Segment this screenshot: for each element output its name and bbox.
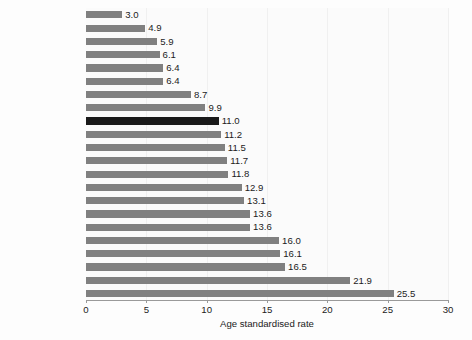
value-label: 16.1	[283, 248, 302, 259]
x-tick-label-20: 20	[322, 304, 333, 315]
value-label: 4.9	[148, 22, 161, 33]
value-label: 16.0	[282, 235, 301, 246]
bar	[86, 224, 250, 231]
bar-row: United Kingdom6.4	[86, 61, 448, 74]
value-label: 8.7	[194, 89, 207, 100]
bar	[86, 197, 244, 204]
x-axis-title-text: Age standardised rate	[220, 318, 314, 329]
x-tick-label-25: 25	[382, 304, 393, 315]
value-label: 11.5	[228, 142, 246, 153]
bar	[86, 184, 242, 191]
gridline-30	[448, 8, 449, 300]
value-label: 11.2	[224, 129, 242, 140]
x-tick-15	[267, 300, 268, 303]
value-label: 6.4	[166, 62, 179, 73]
value-label: 3.0	[125, 9, 138, 20]
bar	[86, 290, 394, 297]
bar-row: Portugal4.9	[86, 21, 448, 34]
value-label: 12.9	[245, 182, 264, 193]
x-tick-5	[146, 300, 147, 303]
bar	[86, 104, 205, 111]
value-label: 5.9	[160, 36, 173, 47]
bar-row: Ireland (1996)11.2	[86, 127, 448, 140]
bar-row: Denmark (1996)13.6	[86, 207, 448, 220]
bar-row: Greece3.0	[86, 8, 448, 21]
bar	[86, 250, 280, 257]
bar-row: France (1996)16.0	[86, 234, 448, 247]
x-tick-0	[86, 300, 87, 303]
bar-row: Czech Republic13.6	[86, 220, 448, 233]
bar-row: Slovakia (1995)12.9	[86, 181, 448, 194]
bar-row: Italy (1995)6.1	[86, 48, 448, 61]
value-label: 25.5	[397, 288, 416, 299]
plot-area: Greece3.0Portugal4.9England and Wales5.9…	[86, 8, 448, 300]
bar	[86, 64, 163, 71]
bar-row: Spain (1995)6.4	[86, 74, 448, 87]
bar	[86, 157, 227, 164]
bar	[86, 78, 163, 85]
x-axis-title: Age standardised rate	[0, 318, 472, 329]
x-tick-label-15: 15	[262, 304, 273, 315]
x-tick-10	[207, 300, 208, 303]
bar	[86, 277, 350, 284]
bar-row: Luxembourg16.5	[86, 260, 448, 273]
bar	[86, 117, 219, 124]
bar	[86, 11, 122, 18]
x-tick-label-0: 0	[83, 304, 88, 315]
value-label: 9.9	[208, 102, 221, 113]
bar-row: Norway (1995)11.5	[86, 141, 448, 154]
x-tick-20	[327, 300, 328, 303]
value-label: 16.5	[288, 261, 307, 272]
value-label: 11.0	[222, 115, 240, 126]
bar-row: Sweden (1996)11.8	[86, 167, 448, 180]
value-label: 13.6	[253, 208, 272, 219]
value-label: 13.1	[247, 195, 266, 206]
value-label: 11.7	[230, 155, 248, 166]
bar	[86, 38, 157, 45]
bar-row: Austria16.1	[86, 247, 448, 260]
bar	[86, 237, 279, 244]
x-tick-label-30: 30	[443, 304, 454, 315]
bar-row: Scotland11.0	[86, 114, 448, 127]
bar	[86, 263, 285, 270]
x-tick-label-5: 5	[144, 304, 149, 315]
bar-row: Poland (1996)13.1	[86, 194, 448, 207]
bar-row: Netherlands8.7	[86, 88, 448, 101]
value-label: 21.9	[353, 275, 372, 286]
bar-row: Iceland (1995)9.9	[86, 101, 448, 114]
bar-row: England and Wales5.9	[86, 35, 448, 48]
bar-row: Hungary25.5	[86, 287, 448, 300]
bar	[86, 91, 191, 98]
bar	[86, 171, 228, 178]
value-label: 6.4	[166, 75, 179, 86]
bar	[86, 25, 145, 32]
x-tick-25	[388, 300, 389, 303]
x-tick-label-10: 10	[201, 304, 212, 315]
bar-row: Finland (1996)21.9	[86, 273, 448, 286]
bar-chart: Greece3.0Portugal4.9England and Wales5.9…	[0, 0, 472, 340]
bar	[86, 131, 221, 138]
bar-row: Germany11.7	[86, 154, 448, 167]
bar	[86, 210, 250, 217]
bar	[86, 51, 160, 58]
value-label: 11.8	[231, 168, 249, 179]
value-label: 6.1	[163, 49, 176, 60]
value-label: 13.6	[253, 221, 272, 232]
bar	[86, 144, 225, 151]
x-tick-30	[448, 300, 449, 303]
